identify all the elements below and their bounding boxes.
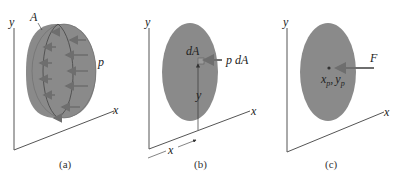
- x-measure-line-left: [148, 151, 166, 158]
- label-y-coord-b: y: [195, 88, 202, 102]
- center-of-pressure-point: [327, 66, 330, 69]
- label-y-axis-a: y: [8, 15, 15, 29]
- label-force-pdA: p dA: [225, 53, 249, 67]
- figure-svg: A p y x (a) dA p dA y x y x (b) F xp,yp: [0, 0, 401, 178]
- label-x-coord-b: x: [167, 143, 174, 157]
- caption-c: (c): [325, 158, 338, 171]
- surface-b: [162, 23, 218, 121]
- label-x-axis-b: x: [250, 104, 257, 118]
- label-area-a: A: [29, 10, 38, 24]
- panel-a: A p y x (a): [8, 10, 119, 171]
- surface-c: [300, 23, 356, 121]
- caption-a: (a): [59, 158, 72, 171]
- label-x-axis-c: x: [383, 105, 390, 119]
- label-force-F: F: [369, 51, 378, 65]
- figure: A p y x (a) dA p dA y x y x (b) F xp,yp: [0, 0, 401, 178]
- panel-c: F xp,yp y x (c): [282, 15, 390, 171]
- area-element-dA: [198, 58, 204, 64]
- x-measure-line-right: [178, 140, 196, 147]
- label-y-axis-b: y: [144, 15, 151, 29]
- caption-b: (b): [194, 158, 207, 171]
- label-pressure-a: p: [97, 55, 104, 69]
- panel-b: dA p dA y x y x (b): [144, 15, 257, 171]
- label-y-axis-c: y: [282, 15, 289, 29]
- label-element-dA: dA: [186, 44, 200, 58]
- label-x-axis-a: x: [112, 103, 119, 117]
